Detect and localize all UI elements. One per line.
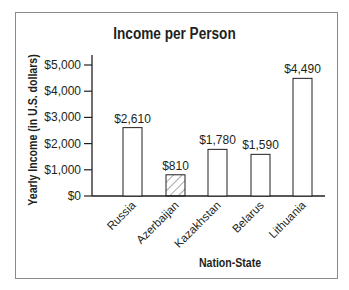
- bar-plot: $0$1,000$2,000$3,000$4,000$5,000 $2,610R…: [0, 0, 349, 290]
- bar-belarus: [251, 154, 270, 196]
- y-tick-label: $5,000: [44, 58, 81, 72]
- y-tick-label: $1,000: [44, 163, 81, 177]
- category-label: Belarus: [230, 199, 266, 235]
- category-label: Lithuania: [266, 199, 308, 241]
- value-label: $810: [162, 159, 189, 173]
- bar-kazakhstan: [208, 149, 227, 196]
- bars: $2,610Russia$810Azerbaijan$1,780Kazakhst…: [105, 62, 322, 250]
- y-tick-label: $3,000: [44, 110, 81, 124]
- value-label: $4,490: [284, 62, 321, 76]
- category-label: Russia: [105, 199, 139, 233]
- y-tick-label: $2,000: [44, 137, 81, 151]
- bar-azerbaijan: [166, 175, 185, 196]
- bar-russia: [123, 128, 142, 196]
- value-label: $2,610: [114, 112, 151, 126]
- bar-lithuania: [293, 78, 312, 196]
- y-tick-label: $4,000: [44, 84, 81, 98]
- y-tick-label: $0: [68, 189, 82, 203]
- value-label: $1,590: [242, 138, 279, 152]
- value-label: $1,780: [199, 133, 236, 147]
